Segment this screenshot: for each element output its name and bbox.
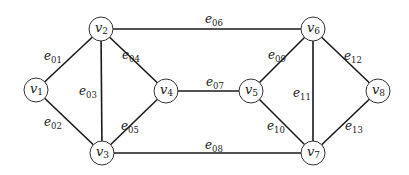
edge-label-e05: e05 [121, 119, 139, 135]
edge-label-subscript: 02 [51, 121, 62, 131]
edge-label-subscript: 09 [275, 54, 286, 64]
node-v4: v4 [154, 79, 178, 103]
edge-label-subscript: 06 [212, 18, 223, 28]
edge-label-base: e [44, 115, 51, 129]
edge-label-e08: e08 [205, 138, 223, 154]
node-v2: v2 [89, 17, 113, 41]
edge-e05 [102, 91, 166, 153]
node-label-subscript: 5 [252, 88, 258, 98]
edge-label-e11: e11 [293, 86, 311, 102]
edge-label-e02: e02 [44, 115, 62, 131]
node-label-subscript: 3 [103, 150, 109, 160]
node-label-subscript: 1 [37, 87, 43, 97]
edge-label-e03: e03 [79, 84, 97, 100]
edge-label-base: e [121, 119, 128, 133]
edge-label-subscript: 04 [129, 54, 140, 64]
edge-label-base: e [205, 12, 212, 26]
edge-label-e01: e01 [44, 49, 62, 65]
edge-label-e12: e12 [344, 49, 362, 65]
node-v6: v6 [301, 17, 325, 41]
edge-label-subscript: 12 [351, 55, 362, 65]
edge-label-subscript: 05 [128, 125, 139, 135]
node-v1: v1 [24, 78, 48, 102]
edge-label-base: e [345, 119, 352, 133]
edge-label-base: e [79, 84, 86, 98]
edge-label-e09: e09 [268, 48, 286, 64]
edge-label-subscript: 01 [51, 55, 62, 65]
node-label-subscript: 6 [314, 26, 320, 36]
edge-label-e13: e13 [345, 119, 363, 135]
edge-e03 [101, 29, 102, 153]
edge-label-e06: e06 [205, 12, 223, 28]
node-v3: v3 [90, 141, 114, 165]
edge-label-base: e [206, 75, 213, 89]
edge-label-base: e [122, 48, 129, 62]
edge-label-subscript: 11 [300, 92, 311, 102]
edge-label-base: e [268, 48, 275, 62]
edge-label-base: e [205, 138, 212, 152]
edge-label-subscript: 03 [86, 90, 97, 100]
edge-label-subscript: 10 [274, 125, 285, 135]
edge-label-subscript: 13 [352, 125, 363, 135]
edge-label-base: e [267, 119, 274, 133]
graph-diagram: e01e02e03e04e05e06e07e08e09e10e11e12e13 … [0, 0, 409, 175]
node-label-subscript: 2 [102, 26, 108, 36]
edge-label-e07: e07 [206, 75, 224, 91]
node-label-subscript: 7 [314, 150, 320, 160]
node-v5: v5 [239, 79, 263, 103]
edge-label-subscript: 08 [212, 144, 223, 154]
edge-label-subscript: 07 [213, 81, 224, 91]
node-v7: v7 [301, 141, 325, 165]
edge-label-e04: e04 [122, 48, 140, 64]
edge-label-base: e [344, 49, 351, 63]
node-label-subscript: 4 [167, 88, 173, 98]
node-label-subscript: 8 [379, 88, 385, 98]
node-v8: v8 [366, 79, 390, 103]
edge-label-base: e [44, 49, 51, 63]
edge-label-base: e [293, 86, 300, 100]
